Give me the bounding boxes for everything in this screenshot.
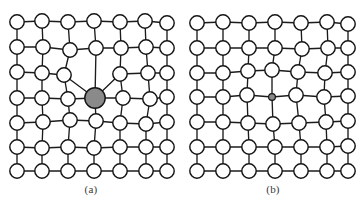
host-atom — [268, 140, 282, 154]
host-atom — [295, 42, 309, 56]
host-atom — [113, 15, 127, 29]
host-atom — [63, 43, 77, 57]
host-atom — [113, 116, 127, 130]
host-atom — [216, 41, 230, 55]
host-atom — [341, 164, 355, 178]
host-atom — [63, 113, 77, 127]
host-atom — [113, 67, 127, 81]
host-atom — [190, 66, 204, 80]
host-atom — [242, 41, 256, 55]
host-atom — [190, 140, 204, 154]
host-atom — [268, 15, 282, 29]
host-atom — [241, 64, 255, 78]
host-atom — [216, 66, 230, 80]
host-atom — [160, 41, 174, 55]
host-atom — [190, 115, 204, 129]
host-atom — [160, 115, 174, 129]
panel-a: (a) — [0, 0, 182, 212]
host-atom — [116, 91, 130, 105]
host-atom — [268, 164, 282, 178]
host-atom — [160, 66, 174, 80]
host-atom — [143, 92, 157, 106]
atom-layer-a — [10, 14, 174, 178]
host-atom — [160, 140, 174, 154]
host-atom — [341, 41, 355, 55]
host-atom — [268, 41, 282, 55]
host-atom — [10, 65, 24, 79]
figure-root: (a) (b) — [0, 0, 364, 212]
host-atom — [87, 141, 101, 155]
host-atom — [318, 66, 332, 80]
host-atom — [35, 141, 49, 155]
host-atom — [341, 17, 355, 31]
panel-caption-b: (b) — [182, 182, 364, 196]
host-atom — [216, 90, 230, 104]
host-atom — [35, 91, 49, 105]
host-atom — [139, 164, 153, 178]
host-atom — [10, 40, 24, 54]
host-atom — [241, 116, 255, 130]
host-atom — [320, 140, 334, 154]
host-atom — [36, 40, 50, 54]
host-atom — [113, 164, 127, 178]
host-atom — [341, 65, 355, 79]
host-atom — [317, 90, 331, 104]
host-atom — [10, 164, 24, 178]
host-atom — [190, 164, 204, 178]
panel-b: (b) — [182, 0, 364, 212]
host-atom — [10, 15, 24, 29]
host-atom — [87, 14, 101, 28]
host-atom — [141, 66, 155, 80]
host-atom — [113, 140, 127, 154]
host-atom — [139, 140, 153, 154]
host-atom — [242, 140, 256, 154]
host-atom — [61, 15, 75, 29]
host-atom — [160, 164, 174, 178]
host-atom — [216, 140, 230, 154]
host-atom — [36, 115, 50, 129]
host-atom — [320, 164, 334, 178]
host-atom — [294, 164, 308, 178]
panel-caption-a: (a) — [0, 182, 182, 196]
host-atom — [10, 116, 24, 130]
host-atom — [216, 15, 230, 29]
host-atom — [190, 16, 204, 30]
impurity-atom — [269, 94, 276, 101]
host-atom — [87, 164, 101, 178]
host-atom — [294, 140, 308, 154]
host-atom — [139, 117, 153, 131]
host-atom — [35, 14, 49, 28]
host-atom — [341, 114, 355, 128]
host-atom — [341, 89, 355, 103]
host-atom — [35, 164, 49, 178]
host-atom — [61, 92, 75, 106]
host-atom — [160, 16, 174, 30]
host-atom — [321, 41, 335, 55]
host-atom — [10, 91, 24, 105]
host-atom — [294, 16, 308, 30]
host-atom — [341, 139, 355, 153]
host-atom — [216, 164, 230, 178]
host-atom — [57, 68, 71, 82]
host-atom — [138, 14, 152, 28]
host-atom — [319, 115, 333, 129]
host-atom — [190, 90, 204, 104]
host-atom — [242, 164, 256, 178]
host-atom — [114, 41, 128, 55]
host-atom — [242, 16, 256, 30]
host-atom — [89, 41, 103, 55]
host-atom — [240, 88, 254, 102]
host-atom — [61, 164, 75, 178]
lattice-diagram-a — [0, 0, 182, 182]
host-atom — [61, 140, 75, 154]
host-atom — [216, 115, 230, 129]
host-atom — [320, 15, 334, 29]
impurity-atom — [85, 88, 105, 108]
host-atom — [139, 40, 153, 54]
host-atom — [265, 63, 279, 77]
host-atom — [291, 65, 305, 79]
host-atom — [35, 66, 49, 80]
lattice-diagram-b — [182, 0, 364, 182]
host-atom — [289, 88, 303, 102]
host-atom — [190, 41, 204, 55]
